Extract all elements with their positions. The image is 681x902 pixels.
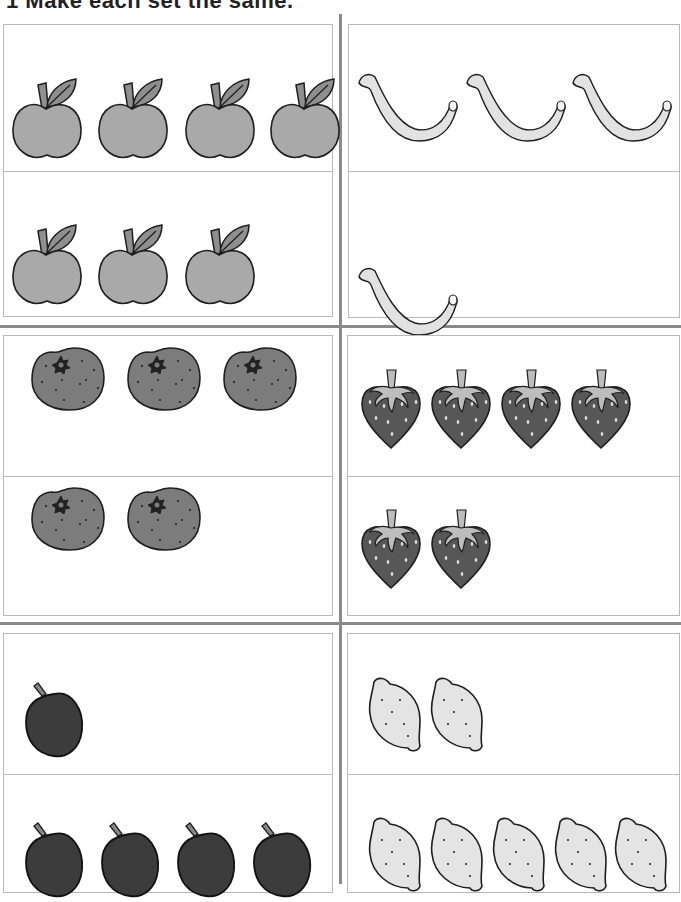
set-box-plums [3,633,333,893]
apple-icon [10,213,84,311]
lemon-icon [492,816,548,898]
exercise-title: 1 Make each set the same. [6,0,294,14]
apple-icon [183,67,257,165]
apple-icon [183,213,257,311]
lemon-icon [430,816,486,898]
plum-icon [24,680,86,764]
set-row-divider [348,476,679,477]
set-row-divider [348,774,679,775]
set-row-divider [349,171,679,172]
set-row-divider [4,774,332,775]
plum-icon [176,820,238,902]
set-box-lemons [347,633,680,893]
lemon-icon [554,816,610,898]
apple-icon [96,213,170,311]
banana-icon [463,73,567,149]
lemon-icon [614,816,670,898]
orange-icon [222,346,298,416]
strawberry-icon [360,368,422,454]
banana-icon [569,73,673,149]
lemon-icon [368,816,424,898]
set-row-divider [4,476,332,477]
apple-icon [10,67,84,165]
plum-icon [24,820,86,902]
strawberry-icon [430,368,492,454]
orange-icon [126,486,202,556]
set-row-divider [4,171,332,172]
lemon-icon [430,676,486,758]
strawberry-icon [570,368,632,454]
orange-icon [30,346,106,416]
set-box-strawberries [347,335,680,616]
apple-icon [96,67,170,165]
plum-icon [252,820,314,902]
lemon-icon [368,676,424,758]
set-box-apples [3,24,333,317]
banana-icon [355,267,459,343]
orange-icon [30,486,106,556]
banana-icon [355,73,459,149]
horizontal-divider-1 [0,325,681,328]
apple-icon [268,67,342,165]
orange-icon [126,346,202,416]
plum-icon [100,820,162,902]
strawberry-icon [430,508,492,594]
strawberry-icon [360,508,422,594]
strawberry-icon [500,368,562,454]
horizontal-divider-2 [0,622,681,625]
set-box-oranges [3,335,333,616]
set-box-bananas [348,24,680,318]
